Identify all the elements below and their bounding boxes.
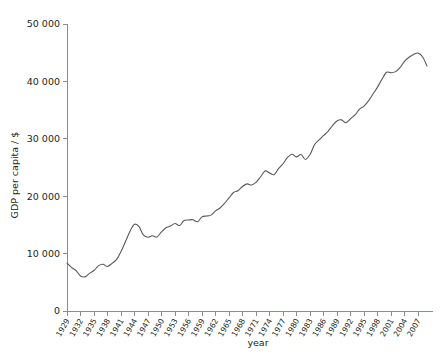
axes: [63, 24, 433, 316]
y-tick-label: 10 000: [27, 248, 60, 259]
y-tick-marks: [63, 24, 67, 311]
y-tick-label: 40 000: [27, 76, 60, 87]
y-tick-label: 50 000: [27, 18, 60, 29]
x-axis-title: year: [247, 337, 268, 348]
x-tick-marks: [67, 311, 418, 316]
x-tick-label: 2007: [405, 317, 423, 338]
chart-canvas: 010 00020 00030 00040 00050 000 19291932…: [0, 0, 448, 362]
y-tick-label: 30 000: [27, 133, 60, 144]
y-tick-label: 0: [54, 305, 60, 316]
y-tick-label: 20 000: [27, 191, 60, 202]
gdp-per-capita-line-chart: 010 00020 00030 00040 00050 000 19291932…: [0, 0, 448, 362]
x-tick-labels: 1929193219351938194119441947195019531956…: [54, 317, 423, 338]
y-axis-title: GDP per capita / $: [9, 132, 20, 219]
y-tick-labels: 010 00020 00030 00040 00050 000: [27, 18, 60, 316]
data-series-line: [67, 53, 427, 277]
